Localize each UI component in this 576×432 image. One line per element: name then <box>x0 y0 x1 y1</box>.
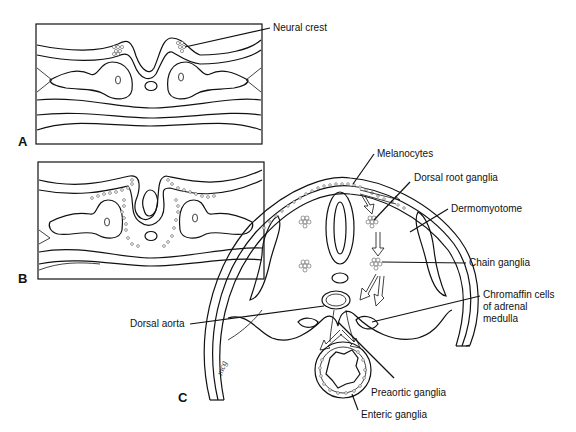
chromaffin-leader <box>372 296 480 322</box>
side-line-left-b <box>39 230 50 244</box>
label-chromaffin-3: medulla <box>483 313 518 324</box>
chain-ganglion-right <box>370 258 382 270</box>
endoderm-a-2 <box>37 113 261 118</box>
body-wall-mid <box>213 186 471 400</box>
label-chromaffin-2: of adrenal <box>483 301 527 312</box>
chain-ganglia-leader <box>382 262 466 263</box>
neural-crest-leader <box>185 28 270 47</box>
panel-label-a: A <box>18 134 28 149</box>
panel-b: B <box>18 162 264 286</box>
dorsal-aorta-inner <box>326 294 346 306</box>
label-chromaffin-1: Chromaffin cells <box>483 289 555 300</box>
dorsal-aorta-leader <box>190 306 324 324</box>
dorsal-root-ganglion-left <box>299 216 311 228</box>
enteric-leader <box>352 394 358 410</box>
endoderm-a-3 <box>37 123 261 130</box>
label-chain-ganglia: Chain ganglia <box>469 257 531 268</box>
somite-b-right <box>180 200 253 238</box>
gut-lumen <box>326 350 360 388</box>
somite-cavity-b-right <box>193 214 198 222</box>
panel-label-b: B <box>18 271 27 286</box>
label-neural-crest: Neural crest <box>273 22 327 33</box>
endoderm-b-3 <box>39 263 100 270</box>
somite-left <box>50 62 132 99</box>
chain-ganglion-left <box>299 260 311 272</box>
neural-tube-b <box>143 190 158 216</box>
somite-b-left <box>49 200 122 238</box>
notochord-b <box>145 232 157 241</box>
preaortic-left-cluster <box>298 318 318 327</box>
endoderm-b-2 <box>39 259 262 266</box>
neural-crest-diagram: Neural crest A B <box>0 0 576 432</box>
ectoderm-b-outer <box>39 170 262 219</box>
panel-a: Neural crest A <box>18 22 327 149</box>
artist-signature: mcg <box>214 359 229 377</box>
endoderm-a-1 <box>37 99 261 108</box>
label-dorsal-root-ganglia: Dorsal root ganglia <box>414 172 498 183</box>
label-dermomyotome: Dermomyotome <box>451 203 523 214</box>
neural-tube-c <box>326 192 354 264</box>
dermomyotome-right <box>416 212 446 296</box>
arrow-to-preaortic <box>360 274 378 300</box>
somite-cavity-left <box>116 76 121 84</box>
gut-outer <box>315 342 371 398</box>
label-dorsal-aorta: Dorsal aorta <box>130 318 185 329</box>
ectoderm-outer <box>37 38 261 72</box>
label-enteric-ganglia: Enteric ganglia <box>361 409 428 420</box>
panel-label-c: C <box>178 390 188 405</box>
somite-cavity-right <box>179 73 184 81</box>
notochord-a <box>145 82 157 91</box>
notochord-c <box>332 273 348 283</box>
panel-c: mcg Melanocytes Dorsal root ganglia Derm… <box>130 148 555 420</box>
label-melanocytes: Melanocytes <box>377 148 433 159</box>
neural-canal-c <box>334 202 346 254</box>
arrow-to-chain <box>372 232 384 256</box>
label-preaortic-ganglia: Preaortic ganglia <box>371 387 446 398</box>
somite-cavity-b-left <box>105 218 110 226</box>
mesentery-left <box>330 310 334 342</box>
ectoderm-inner <box>37 50 261 79</box>
